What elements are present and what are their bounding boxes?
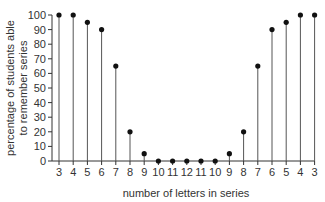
y-tick-label: 60 <box>34 67 46 79</box>
data-marker <box>71 12 76 17</box>
data-marker <box>99 27 104 32</box>
x-tick-label: 4 <box>70 166 76 178</box>
y-tick-label: 0 <box>40 155 46 167</box>
x-tick-label: 3 <box>56 166 62 178</box>
y-tick-label: 40 <box>34 97 46 109</box>
data-marker <box>227 151 232 156</box>
data-point <box>312 12 317 161</box>
data-point <box>255 64 260 162</box>
data-marker <box>184 158 189 163</box>
data-point <box>85 20 90 161</box>
y-axis-title-line: to remember series <box>17 40 29 135</box>
data-marker <box>284 20 289 25</box>
y-tick-label: 100 <box>28 9 46 21</box>
data-point <box>227 151 232 161</box>
data-marker <box>269 27 274 32</box>
data-stems <box>56 12 317 163</box>
y-tick-label: 90 <box>34 24 46 36</box>
x-tick-label: 10 <box>152 166 164 178</box>
data-marker <box>127 129 132 134</box>
x-tick-label: 9 <box>141 166 147 178</box>
x-tick-label: 7 <box>255 166 261 178</box>
x-axis-title: number of letters in series <box>123 187 250 199</box>
data-marker <box>170 158 175 163</box>
x-tick-label: 11 <box>195 166 206 178</box>
data-point <box>184 158 189 163</box>
data-marker <box>156 158 161 163</box>
data-point <box>142 151 147 161</box>
y-tick-label: 10 <box>34 140 46 152</box>
x-tick-label: 10 <box>209 166 221 178</box>
data-point <box>113 64 118 162</box>
x-tick-label: 8 <box>127 166 133 178</box>
data-marker <box>312 12 317 17</box>
stem-chart: percentage of students ableto remember s… <box>0 0 325 202</box>
data-point <box>284 20 289 161</box>
x-axis: 345678910111211109876543 <box>52 161 318 178</box>
data-point <box>56 12 61 161</box>
y-tick-label: 80 <box>34 38 46 50</box>
data-point <box>198 158 203 163</box>
x-tick-label: 11 <box>167 166 178 178</box>
y-tick-label: 70 <box>34 53 46 65</box>
data-point <box>298 12 303 161</box>
y-axis-title: percentage of students ableto remember s… <box>4 20 29 156</box>
x-tick-label: 6 <box>269 166 275 178</box>
data-point <box>170 158 175 163</box>
y-axis: 0102030405060708090100 <box>28 9 52 167</box>
data-point <box>99 27 104 161</box>
data-point <box>213 158 218 163</box>
y-tick-label: 30 <box>34 111 46 123</box>
x-tick-label: 6 <box>99 166 105 178</box>
x-tick-label: 3 <box>312 166 318 178</box>
data-point <box>156 158 161 163</box>
data-marker <box>298 12 303 17</box>
data-point <box>71 12 76 161</box>
data-marker <box>85 20 90 25</box>
data-marker <box>198 158 203 163</box>
y-tick-label: 20 <box>34 126 46 138</box>
x-tick-label: 5 <box>84 166 90 178</box>
y-tick-label: 50 <box>34 82 46 94</box>
data-point <box>241 129 246 161</box>
x-tick-label: 4 <box>297 166 303 178</box>
data-point <box>127 129 132 161</box>
data-marker <box>142 151 147 156</box>
x-tick-label: 5 <box>283 166 289 178</box>
x-tick-label: 12 <box>181 166 193 178</box>
data-marker <box>56 12 61 17</box>
y-axis-title-line: percentage of students able <box>4 20 16 156</box>
x-tick-label: 8 <box>241 166 247 178</box>
x-tick-label: 7 <box>113 166 119 178</box>
data-point <box>269 27 274 161</box>
data-marker <box>213 158 218 163</box>
data-marker <box>255 64 260 69</box>
x-tick-label: 9 <box>226 166 232 178</box>
data-marker <box>113 64 118 69</box>
data-marker <box>241 129 246 134</box>
